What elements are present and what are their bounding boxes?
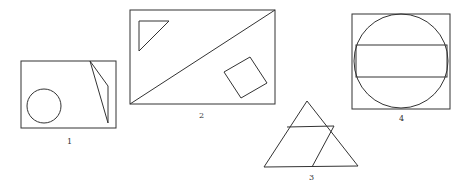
figures-canvas bbox=[0, 0, 467, 190]
figure-4-label: 4 bbox=[399, 114, 404, 123]
figure-3 bbox=[264, 101, 358, 167]
figure-2-label: 2 bbox=[199, 111, 204, 120]
figure-1 bbox=[21, 61, 116, 128]
figure-2 bbox=[130, 10, 275, 104]
figure-1-label: 1 bbox=[67, 137, 72, 146]
figure-3-label: 3 bbox=[309, 173, 314, 182]
figure-4 bbox=[352, 14, 450, 109]
